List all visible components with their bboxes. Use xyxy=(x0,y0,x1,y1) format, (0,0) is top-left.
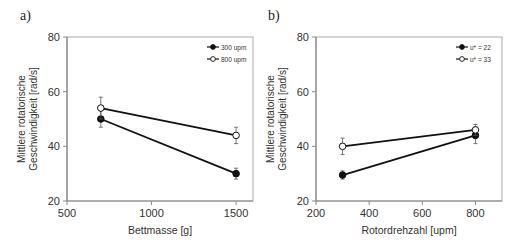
chart-panel-b: b) 20406080200400600800Rotordrehzahl [up… xyxy=(260,0,521,244)
open-circle-marker-icon xyxy=(339,143,346,150)
x-axis-label: Rotordrehzahl [upm] xyxy=(361,224,456,236)
y-tick-label: 80 xyxy=(297,31,309,43)
x-tick-label: 400 xyxy=(360,207,378,219)
series-line xyxy=(101,108,236,135)
x-tick-label: 800 xyxy=(466,207,484,219)
y-axis-label: Mittlere rotatorische xyxy=(16,75,27,163)
filled-circle-marker-icon xyxy=(233,170,240,177)
chart-a-plot: 2040608050010001500Bettmasse [g]Mittlere… xyxy=(0,0,260,244)
y-tick-label: 40 xyxy=(297,140,309,152)
x-tick-label: 500 xyxy=(58,207,76,219)
y-tick-label: 80 xyxy=(48,31,60,43)
series-line xyxy=(343,135,476,175)
legend-label: 800 upm xyxy=(221,56,246,64)
x-tick-label: 1500 xyxy=(224,207,248,219)
y-tick-label: 60 xyxy=(297,86,309,98)
open-circle-marker-icon xyxy=(233,132,240,139)
y-axis-label: Geschwindigkeit [rad/s] xyxy=(277,67,288,171)
x-axis-label: Bettmasse [g] xyxy=(128,224,192,236)
x-tick-label: 600 xyxy=(413,207,431,219)
legend-label: u* = 22 xyxy=(470,44,491,51)
open-circle-marker-icon xyxy=(472,127,479,134)
chart-b-plot: 20406080200400600800Rotordrehzahl [upm]M… xyxy=(260,0,521,244)
series-line xyxy=(343,130,476,146)
x-tick-label: 1000 xyxy=(139,207,163,219)
y-tick-label: 40 xyxy=(48,140,60,152)
legend-label: u* = 33 xyxy=(470,56,491,63)
y-tick-label: 60 xyxy=(48,86,60,98)
legend-filled-circle-icon xyxy=(460,45,465,50)
legend-open-circle-icon xyxy=(460,57,465,62)
series-line xyxy=(101,119,236,174)
legend-filled-circle-icon xyxy=(211,45,216,50)
y-tick-label: 20 xyxy=(48,195,60,207)
y-axis-label: Mittlere rotatorische xyxy=(265,75,276,163)
open-circle-marker-icon xyxy=(98,105,105,112)
chart-panel-a: a) 2040608050010001500Bettmasse [g]Mittl… xyxy=(0,0,260,244)
legend-label: 300 upm xyxy=(221,44,246,52)
y-axis-label: Geschwindigkeit [rad/s] xyxy=(28,67,39,171)
filled-circle-marker-icon xyxy=(339,172,346,179)
legend-open-circle-icon xyxy=(211,57,216,62)
x-tick-label: 200 xyxy=(307,207,325,219)
y-tick-label: 20 xyxy=(297,195,309,207)
